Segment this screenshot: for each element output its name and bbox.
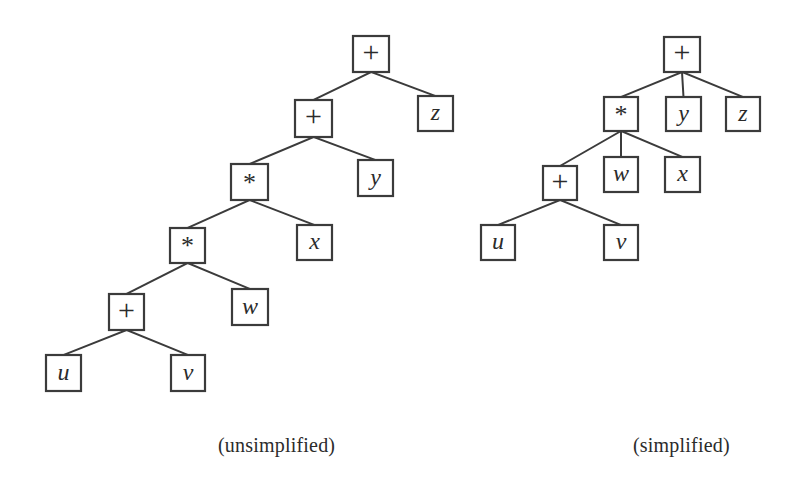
node-label: w [242, 293, 258, 319]
caption-simplified: (simplified) [633, 434, 730, 457]
node-label: x [308, 228, 320, 254]
node-label: v [183, 359, 194, 385]
tree-node[interactable]: + [109, 293, 144, 330]
tree-edge [682, 72, 684, 97]
tree-node[interactable]: + [295, 99, 332, 137]
tree-node[interactable]: * [231, 164, 268, 200]
tree-edge [314, 137, 376, 160]
tree-edge [682, 72, 743, 97]
tree-node[interactable]: y [666, 97, 701, 131]
tree-node[interactable]: u [46, 355, 81, 391]
tree-node[interactable]: + [664, 35, 700, 72]
tree-edge [314, 72, 372, 100]
tree-node[interactable]: + [543, 164, 577, 200]
caption-unsimplified: (unsimplified) [218, 434, 335, 457]
tree-edge [498, 200, 560, 225]
tree-edge [371, 72, 436, 96]
node-label: z [737, 100, 748, 126]
expression-tree-figure: +z+y*x*w+uv+*yz+wxuv (unsimplified) (sim… [0, 0, 797, 488]
tree-node[interactable]: z [726, 97, 760, 131]
tree-node[interactable]: x [297, 225, 332, 260]
tree-node[interactable]: v [604, 225, 638, 260]
node-label: + [674, 35, 691, 68]
node-label: + [118, 293, 135, 326]
tree-node[interactable]: x [665, 157, 700, 192]
node-label: y [676, 100, 689, 126]
tree-edge [250, 137, 314, 164]
node-label: u [58, 359, 70, 385]
tree-edge [621, 131, 683, 157]
tree-node[interactable]: u [481, 225, 515, 260]
tree-edge [560, 200, 621, 225]
tree-node[interactable]: z [418, 96, 453, 131]
tree-edge [188, 200, 250, 228]
node-label: * [615, 100, 628, 129]
tree-edge [621, 72, 682, 97]
node-label: v [616, 228, 627, 254]
node-label: * [181, 231, 194, 260]
tree-diagram-canvas: +z+y*x*w+uv+*yz+wxuv [0, 0, 797, 488]
node-label: + [552, 164, 569, 197]
tree-node[interactable]: * [604, 97, 638, 131]
tree-node[interactable]: * [170, 228, 205, 263]
node-label: + [305, 99, 322, 132]
tree-node[interactable]: w [604, 157, 638, 192]
tree-edge [64, 330, 127, 355]
node-label: z [430, 99, 441, 125]
node-label: * [243, 168, 256, 197]
node-label: x [676, 160, 688, 186]
tree-node[interactable]: v [171, 355, 205, 391]
nodes-layer: +z+y*x*w+uv+*yz+wxuv [46, 35, 760, 391]
node-label: w [613, 160, 629, 186]
tree-node[interactable]: y [358, 160, 393, 196]
tree-edge [127, 263, 188, 294]
tree-edge [250, 200, 315, 225]
tree-edge [127, 330, 189, 355]
node-label: u [492, 228, 504, 254]
node-label: + [363, 35, 380, 68]
node-label: y [368, 164, 381, 190]
tree-edge [188, 263, 251, 289]
tree-node[interactable]: + [353, 35, 389, 72]
edges-layer [64, 72, 744, 355]
tree-node[interactable]: w [232, 289, 268, 325]
